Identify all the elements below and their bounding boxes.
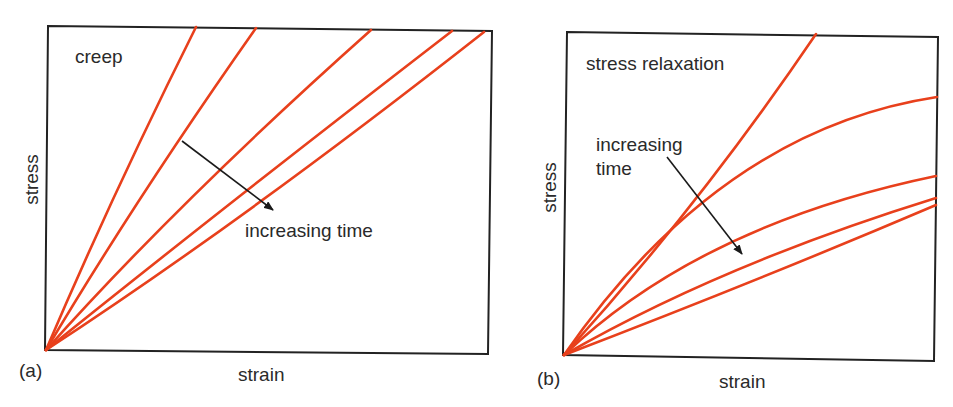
panel-a-plot bbox=[45, 26, 492, 354]
panel-a-ylabel: stress bbox=[22, 154, 41, 205]
creep-curve-5 bbox=[46, 32, 484, 350]
panel-a-label: (a) bbox=[19, 361, 42, 380]
creep-curve-2 bbox=[46, 28, 256, 350]
increasing-time-arrow-b bbox=[667, 157, 742, 254]
panel-a-annotation: increasing time bbox=[245, 221, 373, 240]
panel-b-label: (b) bbox=[537, 369, 560, 388]
creep-curve-3 bbox=[46, 30, 371, 350]
panel-b-ylabel: stress bbox=[540, 162, 559, 213]
panel-a-curves bbox=[46, 27, 484, 350]
panel-b-annotation-line2: time bbox=[596, 159, 632, 178]
relaxation-curve-5 bbox=[564, 205, 936, 355]
panel-b-plot bbox=[563, 32, 938, 361]
panel-a-title: creep bbox=[75, 47, 123, 66]
panel-b-frame bbox=[563, 32, 938, 361]
creep-curve-1 bbox=[46, 27, 196, 350]
panel-b-curves bbox=[564, 34, 937, 355]
relaxation-curve-4 bbox=[564, 198, 936, 355]
figure: creep increasing time stress strain (a) … bbox=[0, 0, 953, 407]
increasing-time-arrow-a bbox=[182, 141, 273, 210]
creep-curve-4 bbox=[46, 31, 452, 350]
panel-b-xlabel: strain bbox=[719, 372, 765, 391]
panel-a-xlabel: strain bbox=[238, 365, 284, 384]
panel-b-title: stress relaxation bbox=[586, 54, 724, 73]
plots-canvas bbox=[0, 0, 953, 407]
panel-b-annotation-line1: increasing bbox=[596, 135, 683, 154]
